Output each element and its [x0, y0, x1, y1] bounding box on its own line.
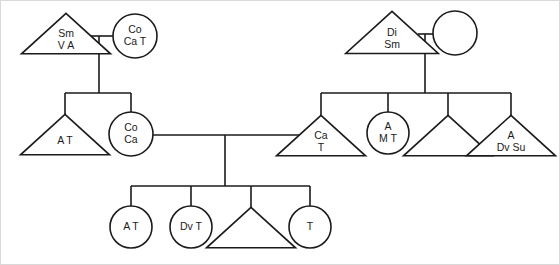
node-label: Dv T: [180, 220, 203, 232]
node-label-line: M T: [379, 132, 397, 144]
node-label-line: Co: [128, 23, 142, 35]
node-circle-t[interactable]: T: [289, 206, 331, 248]
node-label: A T: [123, 220, 139, 232]
node-label-line: Sm: [58, 27, 74, 39]
node-label-line: Sm: [384, 38, 400, 50]
node-label-line: Di: [387, 26, 397, 38]
node-label-line: Dv T: [180, 220, 203, 232]
node-label-line: Ca: [124, 133, 138, 145]
node-circle-empty-top-right[interactable]: [433, 11, 477, 55]
node-label-line: T: [307, 220, 314, 232]
node-label-line: Ca: [314, 129, 328, 141]
node-label-line: A: [384, 120, 391, 132]
node-triangle-sm-v-a[interactable]: SmV A: [22, 13, 111, 54]
triangle-symbol: [207, 207, 296, 248]
node-circle-a-m-t[interactable]: AM T: [367, 112, 409, 154]
node-label-line: V A: [58, 39, 74, 51]
node-label: A T: [57, 134, 73, 146]
node-label-line: Ca T: [124, 35, 147, 47]
node-circle-a-t[interactable]: A T: [110, 206, 152, 248]
circle-symbol: [433, 11, 477, 55]
genogram-canvas: SmV ACoCa TDiSmA TCoCaCaTAM TADv SuA TDv…: [0, 0, 560, 265]
node-circle-dv-t[interactable]: Dv T: [170, 206, 212, 248]
node-circle-co-ca[interactable]: CoCa: [109, 112, 153, 156]
node-circle-co-ca-t[interactable]: CoCa T: [113, 14, 157, 58]
node-triangle-a-t[interactable]: A T: [21, 114, 110, 155]
node-label-line: A: [507, 129, 514, 141]
node-label-line: Dv Su: [497, 141, 526, 153]
node-label-line: A T: [123, 220, 139, 232]
node-label-line: A T: [57, 134, 73, 146]
node-triangle-di-sm[interactable]: DiSm: [346, 11, 439, 53]
node-triangle-empty-gen3[interactable]: [207, 207, 296, 248]
node-label: CoCa: [124, 121, 138, 145]
genogram-drawing: SmV ACoCa TDiSmA TCoCaCaTAM TADv SuA TDv…: [0, 0, 560, 265]
family-member-nodes-layer: SmV ACoCa TDiSmA TCoCaCaTAM TADv SuA TDv…: [21, 11, 556, 248]
node-label-line: Co: [124, 121, 138, 133]
node-label-line: T: [318, 141, 325, 153]
node-label: SmV A: [58, 27, 74, 51]
node-triangle-a-dv-su[interactable]: ADv Su: [467, 115, 556, 156]
node-label: T: [307, 220, 314, 232]
